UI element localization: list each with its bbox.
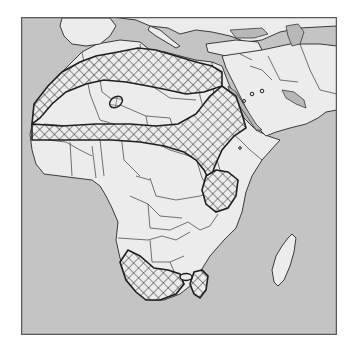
africa-map — [21, 17, 337, 335]
kalahari-ellipse — [180, 274, 192, 281]
map-frame — [21, 17, 337, 335]
